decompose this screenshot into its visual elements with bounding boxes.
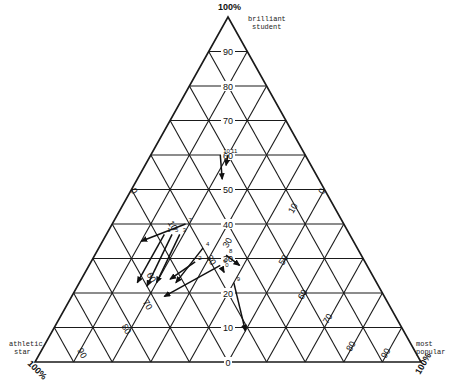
grid-line-left-diagonal: [170, 121, 305, 363]
grid-line-right-diagonal: [74, 52, 248, 363]
top-vertex-label-line2: student: [252, 23, 281, 31]
trajectory-label-9: 9: [237, 276, 241, 282]
horizontal-tick-label: 80: [223, 82, 233, 92]
grid-line-right-diagonal: [151, 121, 286, 363]
trajectory-label-4: 4: [206, 241, 210, 247]
trajectory-arrow-0: [222, 269, 224, 272]
top-vertex-percent: 100%: [218, 2, 241, 12]
left-diagonal-tick-label: 80: [120, 322, 134, 336]
right-diagonal-tick-label: 0: [316, 186, 327, 195]
left-vertex-label-line2: star: [14, 348, 31, 356]
top-vertex-label-line1: brilliant: [248, 15, 286, 23]
grid-line-right-diagonal: [228, 190, 325, 363]
horizontal-tick-label: 20: [223, 289, 233, 299]
right-vertex-label-line1: most: [416, 340, 433, 348]
horizontal-tick-label: 50: [223, 185, 233, 195]
trajectory-arrow-7: [141, 224, 185, 241]
ternary-svg: 0102030405060708090010306070809001030506…: [0, 0, 451, 385]
left-diagonal-tick-label: 70: [141, 298, 155, 312]
trajectory-arrow-6: [164, 265, 220, 296]
ternary-diagram: 0102030405060708090010306070809001030506…: [0, 0, 451, 385]
grid-line-left-diagonal: [54, 328, 73, 363]
trajectory-label-11: 11: [231, 148, 238, 154]
horizontal-tick-label: 70: [223, 116, 233, 126]
axis-ticks: 0102030405060708090010306070809001030506…: [75, 47, 392, 368]
trajectory-label-10: 10: [223, 148, 230, 154]
left-vertex-label-line1: athletic: [9, 340, 43, 348]
left-diagonal-tick-label: 90: [75, 346, 89, 360]
horizontal-tick-label: 0: [225, 358, 230, 368]
horizontal-tick-label: 40: [223, 220, 233, 230]
horizontal-tick-label: 90: [223, 47, 233, 57]
right-diagonal-tick-label: 10: [286, 201, 300, 215]
horizontal-tick-label: 10: [223, 323, 233, 333]
